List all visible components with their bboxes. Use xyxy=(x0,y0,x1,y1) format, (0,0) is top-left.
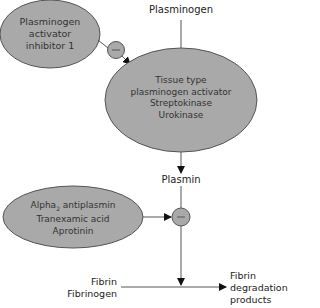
end-product-label: Fibrin degradation products xyxy=(230,270,288,306)
activator-line: Urokinase xyxy=(131,110,232,122)
plasminogen-label: Plasminogen xyxy=(149,4,213,16)
inhibitor1-text: Plasminogen activator inhibitor 1 xyxy=(20,16,81,52)
activator-line: Tissue type xyxy=(131,75,232,87)
inhibitor1-line: Plasminogen xyxy=(20,16,81,28)
substrate-label: Fibrin Fibrinogen xyxy=(67,276,117,300)
activator-line: Streptokinase xyxy=(131,98,232,110)
plasmin-label: Plasmin xyxy=(161,174,200,186)
inhibitor2-line: Aprotinin xyxy=(31,226,116,238)
inhibitor1-line: activator xyxy=(20,28,81,40)
inhibitor2-text: Alpha2 antiplasmin Tranexamic acid Aprot… xyxy=(31,200,116,237)
inhibitor1-line: inhibitor 1 xyxy=(20,40,81,52)
activator-line: plasminogen activator xyxy=(131,87,232,99)
inhibitor2-line: Alpha2 antiplasmin xyxy=(31,200,116,214)
inhibitor2-line: Tranexamic acid xyxy=(31,214,116,226)
activators-text: Tissue type plasminogen activator Strept… xyxy=(131,75,232,121)
